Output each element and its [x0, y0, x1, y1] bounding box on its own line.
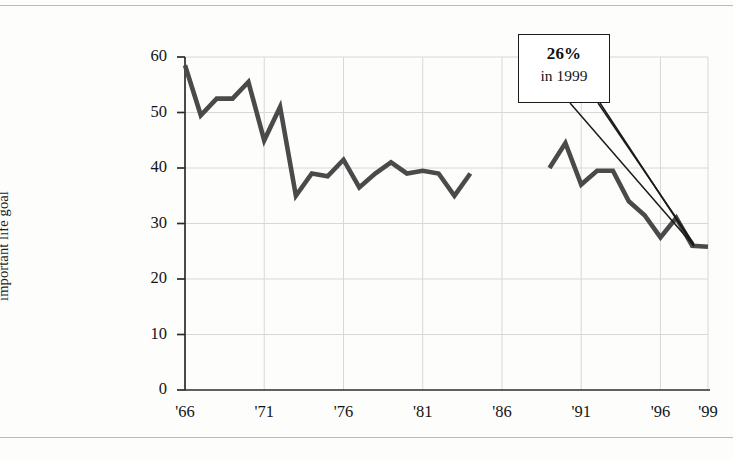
- x-tick-label: '96: [636, 402, 684, 422]
- gridlines-group: [185, 57, 708, 390]
- y-tick-marks-group: [177, 57, 185, 390]
- data-series-group: [185, 65, 708, 247]
- x-tick-label: '71: [240, 402, 288, 422]
- y-tick-label: 60: [125, 46, 167, 66]
- x-tick-label: '91: [557, 402, 605, 422]
- x-tick-label: '76: [319, 402, 367, 422]
- callout-pointer-tail: [570, 103, 694, 246]
- y-tick-label: 0: [125, 379, 167, 399]
- x-tick-label: '99: [684, 402, 732, 422]
- callout-box: 26% in 1999: [518, 34, 610, 103]
- x-tick-label: '81: [399, 402, 447, 422]
- y-tick-label: 50: [125, 102, 167, 122]
- x-tick-label: '86: [478, 402, 526, 422]
- callout-value: 26%: [519, 44, 609, 64]
- data-line-segment-1: [185, 65, 470, 196]
- y-tick-label: 10: [125, 324, 167, 344]
- plot-area: [0, 0, 733, 459]
- y-tick-label: 40: [125, 157, 167, 177]
- callout-subtitle: in 1999: [519, 67, 609, 85]
- y-tick-label: 30: [125, 213, 167, 233]
- y-tick-label: 20: [125, 268, 167, 288]
- x-tick-label: '66: [161, 402, 209, 422]
- chart-figure: Percentage saying that keeping up-to-dat…: [0, 0, 733, 459]
